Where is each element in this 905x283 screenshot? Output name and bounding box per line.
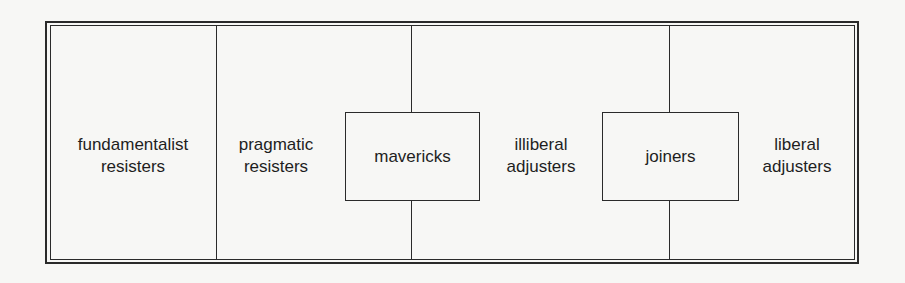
divider-1 — [216, 25, 217, 260]
category-fundamentalist-resisters: fundamentalist resisters — [78, 134, 189, 178]
joiners-box: joiners — [602, 112, 739, 201]
category-joiners: joiners — [645, 146, 695, 168]
category-illiberal-adjusters: illiberal adjusters — [507, 134, 576, 178]
category-liberal-adjusters: liberal adjusters — [763, 134, 832, 178]
category-mavericks: mavericks — [374, 146, 451, 168]
category-pragmatic-resisters: pragmatic resisters — [239, 134, 314, 178]
mavericks-box: mavericks — [345, 112, 480, 201]
